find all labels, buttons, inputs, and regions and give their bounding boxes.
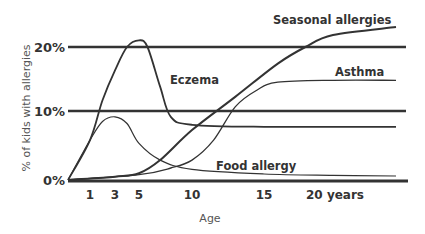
y-tick-0: 0% bbox=[43, 173, 65, 188]
x-tick-1: 1 bbox=[86, 188, 94, 202]
x-tick-3: 3 bbox=[111, 188, 119, 202]
x-tick-20: 20 years bbox=[306, 188, 364, 202]
x-tick-10: 10 bbox=[184, 188, 201, 202]
x-axis-title: Age bbox=[199, 212, 221, 225]
label-food-allergy: Food allergy bbox=[216, 159, 297, 173]
x-tick-5: 5 bbox=[135, 188, 143, 202]
label-asthma: Asthma bbox=[335, 65, 384, 79]
x-tick-15: 15 bbox=[256, 188, 273, 202]
y-tick-20: 20% bbox=[34, 40, 65, 55]
y-tick-10: 10% bbox=[34, 104, 65, 119]
allergy-chart: 20% 10% 0% 1 3 5 10 15 20 years Age % of… bbox=[0, 0, 425, 234]
label-seasonal-allergies: Seasonal allergies bbox=[273, 13, 392, 27]
label-eczema: Eczema bbox=[170, 73, 219, 87]
series-seasonal-allergies-line bbox=[68, 27, 396, 180]
y-axis-title: % of kids with allergies bbox=[20, 44, 33, 171]
